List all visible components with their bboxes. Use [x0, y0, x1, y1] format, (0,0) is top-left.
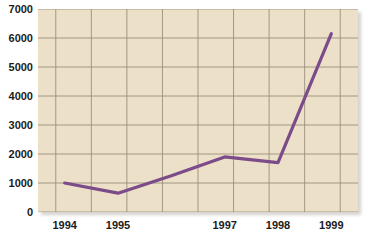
y-tick-label: 7000	[0, 4, 33, 15]
y-tick-label: 5000	[0, 62, 33, 73]
x-tick-label: 1995	[106, 219, 130, 232]
x-tick-label: 1994	[52, 219, 76, 232]
x-tick-label: 1998	[266, 219, 290, 232]
line-chart-figure: 01000200030004000500060007000 1994199519…	[0, 0, 370, 245]
y-tick-label: 0	[0, 207, 33, 218]
y-tick-label: 4000	[0, 91, 33, 102]
x-axis: 19941995199719981999	[38, 219, 358, 235]
x-tick-label: 1997	[212, 219, 236, 232]
y-axis: 01000200030004000500060007000	[0, 9, 33, 212]
y-tick-label: 6000	[0, 33, 33, 44]
y-tick-label: 2000	[0, 149, 33, 160]
x-tick-label: 1999	[319, 219, 343, 232]
plot-canvas	[38, 9, 358, 212]
y-tick-label: 1000	[0, 178, 33, 189]
vertical-gridlines	[56, 9, 340, 212]
plot-area	[38, 9, 358, 212]
y-tick-label: 3000	[0, 120, 33, 131]
